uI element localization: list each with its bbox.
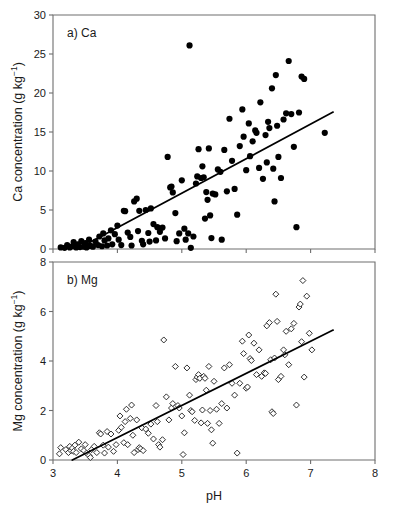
data-point — [187, 392, 193, 398]
panel-a-ca: 051015202530a) CaCa concentration (g kg−… — [0, 0, 414, 258]
data-point — [264, 159, 270, 165]
data-point — [246, 120, 252, 126]
data-point — [180, 452, 186, 458]
data-point — [270, 166, 276, 172]
panel-label: a) Ca — [67, 26, 97, 40]
data-point — [293, 402, 299, 408]
data-point — [293, 224, 299, 230]
x-axis-title: pH — [206, 489, 222, 503]
y-tick-label-25: 25 — [34, 48, 46, 60]
data-point — [237, 143, 243, 149]
data-point — [256, 347, 262, 353]
data-point — [256, 165, 262, 171]
data-points — [58, 42, 328, 251]
data-point — [140, 241, 146, 247]
data-point — [322, 130, 328, 136]
data-point — [206, 145, 212, 151]
data-point — [147, 238, 153, 244]
data-point — [174, 238, 180, 244]
data-point — [195, 146, 201, 152]
data-point — [273, 291, 279, 297]
data-point — [165, 154, 171, 160]
data-point — [113, 442, 119, 448]
data-point — [301, 374, 307, 380]
data-point — [159, 437, 165, 443]
data-point — [219, 237, 225, 243]
data-point — [122, 208, 128, 214]
data-point — [145, 230, 151, 236]
data-point — [241, 134, 247, 140]
data-point — [208, 427, 214, 433]
data-point — [179, 413, 185, 419]
data-point — [286, 58, 292, 64]
data-point — [170, 189, 176, 195]
y-tick-label-5: 5 — [40, 204, 46, 216]
data-point — [185, 230, 191, 236]
data-point — [237, 380, 243, 386]
data-point — [199, 163, 205, 169]
data-point — [243, 167, 249, 173]
data-point — [166, 417, 172, 423]
y-tick-label-8: 8 — [40, 256, 46, 268]
data-point — [181, 430, 187, 436]
data-point — [204, 197, 210, 203]
data-point — [176, 230, 182, 236]
data-point — [271, 198, 277, 204]
x-tick-label-6: 6 — [243, 467, 249, 479]
data-point — [109, 241, 115, 247]
data-point — [246, 332, 252, 338]
data-point — [127, 415, 133, 421]
data-point — [251, 340, 257, 346]
data-point — [134, 196, 140, 202]
y-tick-label-0: 0 — [40, 454, 46, 466]
data-point — [210, 440, 216, 446]
data-point — [262, 132, 268, 138]
data-point — [219, 401, 225, 407]
y-tick-label-0: 0 — [40, 243, 46, 255]
data-point — [221, 365, 227, 371]
y-tick-label-2: 2 — [40, 405, 46, 417]
data-point — [266, 125, 272, 131]
panel-b-svg: 02468345678b) MgMg concentration (g kg−1… — [0, 255, 414, 513]
data-point — [207, 212, 213, 218]
data-point — [234, 450, 240, 456]
data-point — [163, 394, 169, 400]
data-point — [129, 402, 135, 408]
data-point — [183, 237, 189, 243]
data-point — [135, 228, 141, 234]
data-point — [161, 337, 167, 343]
data-point — [94, 450, 100, 456]
data-point — [117, 413, 123, 419]
data-point — [309, 347, 315, 353]
data-points — [56, 278, 314, 461]
data-point — [190, 233, 196, 239]
data-point — [291, 320, 297, 326]
data-point — [273, 72, 279, 78]
data-point — [203, 189, 209, 195]
data-point — [186, 42, 192, 48]
data-point — [265, 119, 271, 125]
data-point — [234, 212, 240, 218]
data-point — [216, 420, 222, 426]
data-point — [253, 130, 259, 136]
data-point — [112, 231, 118, 237]
y-tick-label-6: 6 — [40, 306, 46, 318]
data-point — [208, 235, 214, 241]
data-point — [172, 363, 178, 369]
data-point — [239, 106, 245, 112]
data-point — [150, 436, 156, 442]
data-point — [172, 210, 178, 216]
y-tick-label-15: 15 — [34, 126, 46, 138]
data-point — [286, 362, 292, 368]
data-point — [296, 109, 302, 115]
data-point — [136, 208, 142, 214]
data-point — [205, 420, 211, 426]
data-point — [288, 111, 294, 117]
data-point — [300, 278, 306, 284]
data-point — [226, 116, 232, 122]
data-point — [192, 417, 198, 423]
data-point — [184, 365, 190, 371]
data-point — [102, 450, 108, 456]
y-axis-title: Mg concentration (g kg−1) — [9, 290, 25, 431]
data-point — [221, 147, 227, 153]
